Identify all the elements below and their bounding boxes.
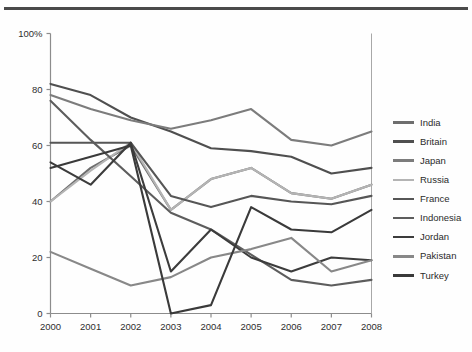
- x-tick-label: 2003: [160, 321, 181, 332]
- legend-line-swatch: [393, 236, 414, 239]
- legend-item-indonesia[interactable]: Indonesia: [393, 208, 471, 227]
- x-tick-label: 2004: [200, 321, 221, 332]
- legend-line-swatch: [393, 179, 414, 182]
- legend-label: Turkey: [420, 271, 449, 281]
- chart-legend: IndiaBritainJapanRussiaFranceIndonesiaJo…: [393, 113, 471, 285]
- legend-label: Russia: [420, 175, 449, 185]
- legend-item-france[interactable]: France: [393, 189, 471, 208]
- y-tick-label: 0: [37, 308, 42, 319]
- legend-line-swatch: [393, 274, 414, 277]
- legend-item-britain[interactable]: Britain: [393, 132, 471, 151]
- legend-line-swatch: [393, 198, 414, 201]
- legend-line-swatch: [393, 121, 414, 124]
- x-tick-label: 2006: [281, 321, 302, 332]
- series-layer: [51, 84, 372, 314]
- series-line-britain: [51, 84, 372, 174]
- y-tick-label: 40: [32, 196, 43, 207]
- legend-line-swatch: [393, 217, 414, 220]
- legend-label: Pakistan: [420, 251, 456, 261]
- x-tick-label: 2007: [321, 321, 342, 332]
- x-tick-label: 2002: [120, 321, 141, 332]
- legend-line-swatch: [393, 255, 414, 258]
- series-line-japan: [51, 95, 372, 145]
- legend-label: Jordan: [420, 232, 449, 242]
- legend-item-russia[interactable]: Russia: [393, 170, 471, 189]
- legend-item-japan[interactable]: Japan: [393, 151, 471, 170]
- legend-label: India: [420, 118, 441, 128]
- x-tick-label: 2008: [361, 321, 382, 332]
- legend-label: Britain: [420, 137, 447, 147]
- y-tick-label: 60: [32, 140, 43, 151]
- series-line-pakistan: [51, 238, 372, 286]
- y-tick-label: 80: [32, 84, 43, 95]
- x-tick-label: 2005: [241, 321, 262, 332]
- legend-line-swatch: [393, 159, 414, 162]
- y-tick-label: 100%: [18, 28, 43, 39]
- y-tick-label: 20: [32, 252, 43, 263]
- chart-page: 020406080100%200020012002200320042005200…: [0, 0, 472, 352]
- legend-item-india[interactable]: India: [393, 113, 471, 132]
- legend-label: Indonesia: [420, 213, 461, 223]
- x-tick-label: 2000: [40, 321, 61, 332]
- legend-item-jordan[interactable]: Jordan: [393, 228, 471, 247]
- legend-item-pakistan[interactable]: Pakistan: [393, 247, 471, 266]
- legend-line-swatch: [393, 140, 414, 143]
- x-tick-label: 2001: [80, 321, 101, 332]
- legend-item-turkey[interactable]: Turkey: [393, 266, 471, 285]
- legend-label: Japan: [420, 156, 446, 166]
- legend-label: France: [420, 194, 450, 204]
